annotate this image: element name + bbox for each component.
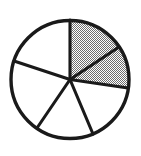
pie-fraction-figure — [0, 0, 141, 156]
pie-chart-svg — [0, 0, 141, 156]
